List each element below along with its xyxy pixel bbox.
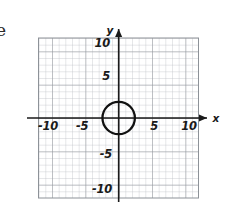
y-tick-label-10: 10	[95, 36, 111, 50]
x-tick-label-neg5: -5	[76, 119, 88, 133]
x-axis-label: x	[212, 112, 221, 124]
graph-figure: e x y	[0, 0, 240, 208]
y-tick-label-5: 5	[102, 69, 110, 83]
x-tick-label-neg10: -10	[38, 119, 58, 133]
edge-glyph: e	[0, 22, 10, 38]
x-tick-label-5: 5	[150, 119, 158, 133]
y-axis-label: y	[107, 24, 115, 36]
y-tick-label-neg5: -5	[100, 147, 112, 161]
coordinate-plane-svg: x y -10 -5 5 10 10 5 -5 -10	[0, 0, 240, 208]
x-tick-label-10: 10	[181, 119, 197, 133]
x-axis-arrowhead	[199, 114, 207, 121]
y-axis-arrowhead	[115, 29, 122, 37]
y-tick-label-neg10: -10	[92, 182, 112, 196]
